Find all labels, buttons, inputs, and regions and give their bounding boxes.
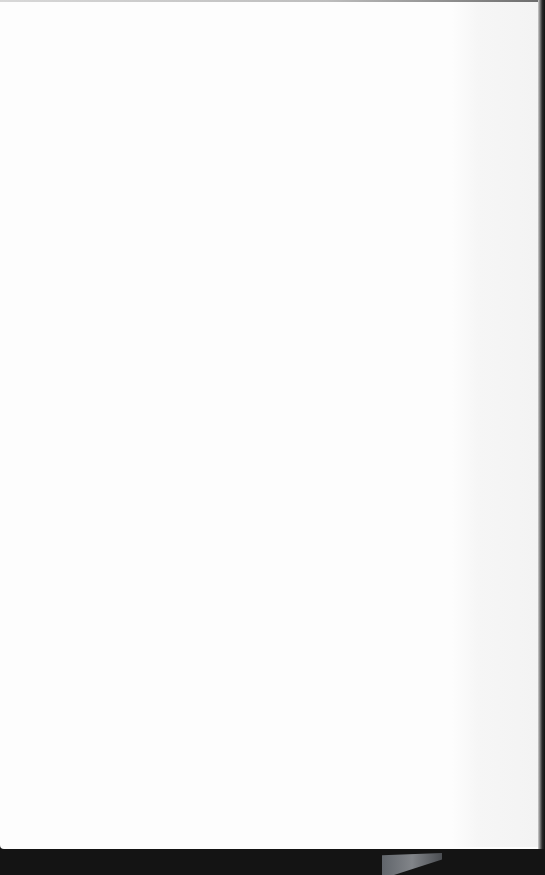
page-right-margin-shade [452, 2, 538, 847]
scan-bottom-edge [0, 849, 545, 875]
scan-right-edge [538, 0, 545, 875]
